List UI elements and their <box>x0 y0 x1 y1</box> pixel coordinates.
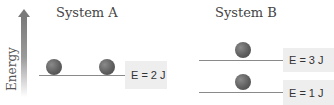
system-b-title: System B <box>215 5 277 20</box>
energy-arrow-head-icon <box>18 9 30 17</box>
energy-arrow-icon <box>21 17 27 97</box>
energy-axis-label: Energy <box>5 47 19 91</box>
system-a-ball-1 <box>46 59 62 75</box>
system-a-ball-2 <box>99 59 115 75</box>
system-b-level-line-upper <box>199 60 283 61</box>
system-a-energy-label: E = 2 J <box>125 61 167 89</box>
system-b-energy-label-upper: E = 3 J <box>283 48 334 72</box>
system-a-level-line <box>39 75 125 76</box>
system-b-energy-label-lower: E = 1 J <box>283 80 334 105</box>
system-b-ball-upper <box>235 42 251 58</box>
system-b-ball-lower <box>235 74 251 90</box>
system-b-level-line-lower <box>199 92 283 93</box>
system-a-title: System A <box>56 5 118 20</box>
